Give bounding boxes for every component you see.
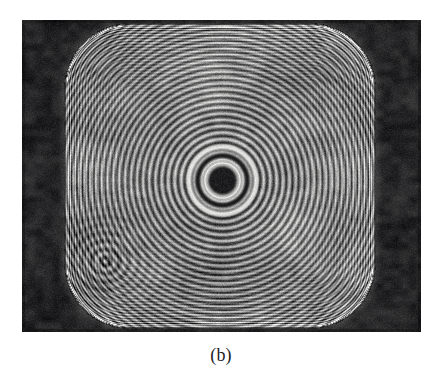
interferogram-photograph xyxy=(22,20,421,332)
figure-container: (b) xyxy=(0,0,442,387)
figure-caption: (b) xyxy=(0,344,442,366)
interferogram-canvas xyxy=(22,20,421,332)
